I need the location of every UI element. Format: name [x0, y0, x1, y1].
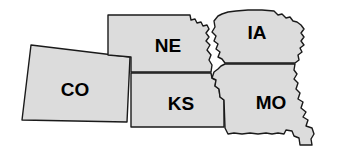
map-container: CONEKSIAMO — [0, 0, 340, 155]
state-shape-ia[interactable] — [212, 10, 304, 63]
state-shape-co[interactable] — [22, 45, 130, 122]
states-map-svg: CONEKSIAMO — [0, 0, 340, 155]
state-shape-ks[interactable] — [131, 73, 224, 127]
